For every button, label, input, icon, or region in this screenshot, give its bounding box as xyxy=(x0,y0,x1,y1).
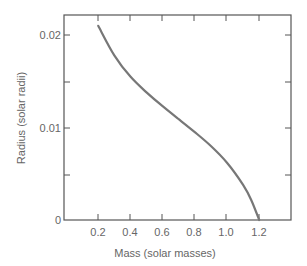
y-tick-label: 0 xyxy=(55,214,61,226)
x-tick-label: 0.6 xyxy=(154,226,169,238)
y-tick-labels: 0 0.01 0.02 xyxy=(40,29,61,226)
x-tick-label: 0.8 xyxy=(186,226,201,238)
x-ticks-bottom xyxy=(98,214,259,220)
x-tick-label: 1.0 xyxy=(218,226,233,238)
mass-radius-curve xyxy=(98,26,259,220)
x-axis-label: Mass (solar masses) xyxy=(114,247,215,259)
x-tick-label: 0.2 xyxy=(90,226,105,238)
y-axis-label: Radius (solar radii) xyxy=(15,72,27,164)
x-ticks-top xyxy=(98,15,259,21)
x-tick-label: 1.2 xyxy=(251,226,266,238)
chart: 0.2 0.4 0.6 0.8 1.0 1.2 0 0.01 0.02 Mass… xyxy=(0,0,307,266)
y-ticks-left xyxy=(64,35,70,175)
y-ticks-right xyxy=(285,35,291,175)
x-tick-labels: 0.2 0.4 0.6 0.8 1.0 1.2 xyxy=(90,226,266,238)
y-tick-label: 0.01 xyxy=(40,122,61,134)
x-tick-label: 0.4 xyxy=(122,226,137,238)
y-tick-label: 0.02 xyxy=(40,29,61,41)
